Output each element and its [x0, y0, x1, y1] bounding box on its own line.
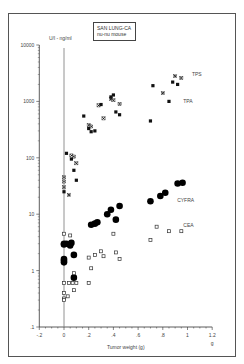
tpa-marker: [171, 80, 174, 83]
x-tick-label: .2: [87, 332, 91, 338]
series-label-tps: TPS: [192, 71, 202, 77]
tpa-marker: [62, 190, 65, 193]
cea-marker: [90, 267, 93, 270]
cyfra-marker: [147, 198, 154, 205]
tpa-marker: [90, 130, 93, 133]
x-unit-label: g: [211, 340, 214, 346]
cea-marker: [102, 255, 105, 258]
x-tick-label: -.2: [36, 332, 42, 338]
tpa-marker: [149, 119, 152, 122]
cea-marker: [93, 253, 96, 256]
cyfra-marker: [116, 203, 123, 210]
y-tick-label: 10000: [20, 42, 34, 48]
y-tick-label: 10: [29, 211, 35, 217]
cyfra-marker: [108, 206, 115, 213]
tpa-marker: [167, 100, 170, 103]
tpa-marker: [82, 114, 85, 117]
tpa-marker: [70, 157, 73, 160]
cea-marker: [114, 251, 117, 254]
cea-marker: [112, 232, 115, 235]
tpa-marker: [72, 169, 75, 172]
tpa-marker: [65, 152, 68, 155]
tpa-marker: [118, 113, 121, 116]
series-label-tpa: TPA: [183, 98, 193, 104]
cea-marker: [87, 256, 90, 259]
tpa-marker: [176, 83, 179, 86]
cea-marker: [72, 272, 75, 275]
cea-marker: [66, 295, 69, 298]
cyfra-marker: [61, 259, 68, 266]
x-tick-label: 0: [63, 332, 66, 338]
tpa-marker: [99, 103, 102, 106]
cyfra-marker: [94, 219, 101, 226]
cyfra-marker: [113, 216, 120, 223]
y-tick-label: 1000: [23, 98, 34, 104]
series-label-cea: CEA: [183, 222, 194, 228]
series-label-cyfra: CYFRA: [177, 197, 195, 203]
x-tick-label: .8: [161, 332, 165, 338]
x-tick-label: 1.2: [209, 332, 216, 338]
cea-marker: [63, 292, 66, 295]
cea-marker: [87, 282, 90, 285]
cea-marker: [118, 258, 121, 261]
cea-marker: [71, 282, 74, 285]
x-tick-label: .6: [136, 332, 140, 338]
tpa-marker: [75, 179, 78, 182]
y-tick-label: .1: [30, 324, 34, 330]
cea-marker: [167, 230, 170, 233]
cea-marker: [72, 289, 75, 292]
cea-marker: [63, 299, 66, 302]
cyfra-marker: [68, 240, 75, 247]
y-tick-label: 100: [26, 155, 35, 161]
tpa-marker: [114, 110, 117, 113]
scatter-chart: -.20.2.4.6.811.2.1110100100010000Tumor w…: [0, 0, 244, 364]
cyfra-marker: [71, 252, 78, 259]
tpa-marker: [112, 93, 115, 96]
tpa-marker: [93, 129, 96, 132]
cea-marker: [63, 232, 66, 235]
cea-marker: [100, 250, 103, 253]
tpa-marker: [87, 127, 90, 130]
x-axis-label: Tumor weight (g): [107, 344, 145, 350]
x-tick-label: 1: [186, 332, 189, 338]
y-tick-label: 1: [32, 268, 35, 274]
tpa-marker: [151, 84, 154, 87]
y-axis-label: U/l - ng/ml: [49, 35, 72, 41]
x-tick-label: .4: [111, 332, 115, 338]
cea-marker: [180, 230, 183, 233]
cea-marker: [67, 282, 70, 285]
cea-marker: [75, 282, 78, 285]
cea-marker: [69, 234, 72, 237]
cea-marker: [155, 225, 158, 228]
cea-marker: [149, 238, 152, 241]
cyfra-marker: [179, 180, 186, 187]
cyfra-marker: [71, 274, 78, 281]
cea-marker: [63, 282, 66, 285]
cyfra-marker: [162, 189, 169, 196]
